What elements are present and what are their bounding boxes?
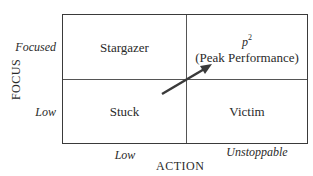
x-tick-low: Low xyxy=(104,148,146,163)
x-tick-unstoppable: Unstoppable xyxy=(212,145,302,160)
x-axis-title: ACTION xyxy=(156,159,204,174)
